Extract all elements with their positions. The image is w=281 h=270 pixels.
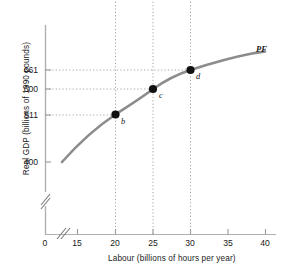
- data-point-label-c: c: [159, 91, 163, 100]
- horizontal-guidelines: [46, 70, 191, 115]
- data-point-label-d: d: [196, 72, 200, 81]
- data-point-b: [111, 110, 119, 118]
- x-tick-marks: [78, 229, 266, 235]
- data-point-label-b: b: [121, 117, 125, 126]
- x-tick-label-30: 30: [179, 238, 201, 248]
- data-point-c: [149, 85, 157, 93]
- chart-figure: 661 600 511 400 0 15 20 25 30 35 40 b c …: [0, 0, 281, 270]
- y-axis-title: Real GDP (billions of 1990 pounds): [22, 23, 31, 195]
- x-tick-label-35: 35: [217, 238, 239, 248]
- x-tick-label-40: 40: [254, 238, 276, 248]
- x-axis-title: Labour (billions of hours per year): [108, 254, 236, 263]
- curve-label-pf: PF: [256, 44, 267, 54]
- production-function-chart: [0, 0, 281, 270]
- vertical-guidelines: [116, 0, 191, 234]
- data-point-d: [186, 66, 194, 74]
- production-function-curve: [62, 52, 265, 163]
- y-tick-marks: [46, 70, 52, 162]
- x-tick-label-15: 15: [66, 238, 88, 248]
- x-tick-label-0: 0: [34, 238, 56, 248]
- x-tick-label-20: 20: [104, 238, 126, 248]
- x-tick-label-25: 25: [142, 238, 164, 248]
